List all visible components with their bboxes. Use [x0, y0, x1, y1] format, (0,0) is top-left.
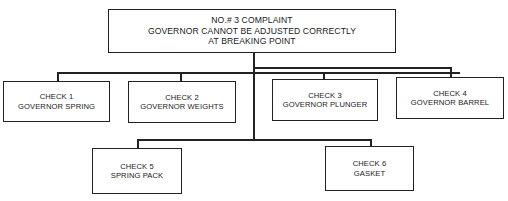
complaint-description: GOVERNOR CANNOT BE ADJUSTED CORRECTLY [148, 26, 356, 37]
check-6-box: CHECK 6 GASKET [325, 146, 414, 191]
check-1-box: CHECK 1 GOVERNOR SPRING [3, 81, 110, 122]
check-item: GOVERNOR WEIGHTS [140, 102, 223, 112]
check-title: CHECK 5 [120, 162, 154, 172]
complaint-detail: AT BREAKING POINT [208, 36, 295, 47]
complaint-number: NO.# 3 COMPLAINT [211, 15, 292, 26]
check-title: CHECK 2 [165, 93, 199, 103]
check-item: GOVERNOR PLUNGER [283, 100, 368, 110]
check-title: CHECK 6 [353, 159, 387, 169]
trunk-line [253, 52, 255, 140]
check-title: CHECK 3 [308, 91, 342, 101]
check-item: SPRING PACK [111, 171, 163, 181]
check-item: GOVERNOR SPRING [18, 102, 95, 112]
check-item: GASKET [354, 169, 385, 179]
upper-bus-line [57, 72, 460, 74]
check-item: GOVERNOR BARREL [411, 98, 489, 108]
complaint-box: NO.# 3 COMPLAINT GOVERNOR CANNOT BE ADJU… [108, 9, 396, 53]
lower-bus-line [137, 139, 371, 141]
check-title: CHECK 1 [40, 92, 74, 102]
check-2-box: CHECK 2 GOVERNOR WEIGHTS [128, 81, 236, 123]
check-3-box: CHECK 3 GOVERNOR PLUNGER [272, 79, 378, 121]
check-title: CHECK 4 [433, 89, 467, 99]
check-4-box: CHECK 4 GOVERNOR BARREL [396, 77, 504, 119]
upper-bus-line-right [253, 67, 451, 69]
check-5-box: CHECK 5 SPRING PACK [92, 148, 182, 194]
